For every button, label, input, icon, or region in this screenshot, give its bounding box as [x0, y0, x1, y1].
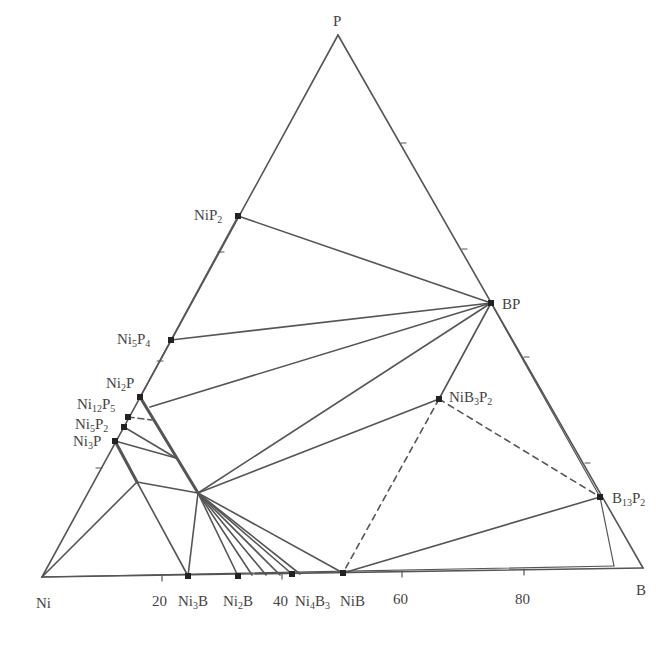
phase-marker-ni5p2	[121, 424, 127, 430]
phase-label-ni12p5: Ni12P5	[77, 397, 115, 414]
phase-marker-ni3b	[185, 573, 191, 579]
phase-marker-nib3p2	[436, 396, 442, 402]
phase-marker-ni2p	[137, 394, 143, 400]
phase-marker-ni3p	[112, 438, 118, 444]
tick-label-60: 60	[393, 592, 408, 607]
phase-marker-ni5p4	[168, 337, 174, 343]
phase-label-ni5p4: Ni5P4	[117, 332, 150, 349]
phase-label-ni5p2: Ni5P2	[75, 417, 108, 434]
tick-label-80: 80	[515, 592, 530, 607]
phase-label-ni3p: Ni3P	[73, 434, 101, 451]
tick-label-20: 20	[152, 594, 167, 609]
corner-label-b: B	[636, 583, 646, 598]
phase-label-nib: NiB	[340, 594, 365, 609]
phase-label-b13p2: B13P2	[612, 491, 645, 508]
phase-label-ni4b3: Ni4B3	[295, 594, 330, 611]
phase-label-bp: BP	[502, 297, 520, 312]
dashed-tieline	[343, 399, 439, 573]
tick-label-40: 40	[273, 594, 288, 609]
phase-marker-ni2b	[235, 573, 241, 579]
phase-marker-ni4b3	[289, 571, 295, 577]
corner-label-p: P	[333, 14, 341, 29]
phase-marker-bp	[488, 300, 494, 306]
dashed-tieline	[128, 417, 152, 420]
phase-label-ni2p: Ni2P	[106, 376, 134, 393]
phase-label-nip2: NiP2	[194, 208, 222, 225]
phase-marker-nib	[340, 570, 346, 576]
corner-label-ni: Ni	[36, 596, 51, 611]
phase-label-nib3p2: NiB3P2	[449, 390, 492, 407]
phase-marker-nip2	[235, 213, 241, 219]
ternary-phase-diagram	[0, 0, 672, 645]
phase-label-ni3b: Ni3B	[178, 594, 208, 611]
phase-marker-ni12p5	[125, 414, 131, 420]
phase-label-ni2b: Ni2B	[223, 594, 253, 611]
dashed-tieline	[439, 399, 600, 497]
phase-marker-b13p2	[597, 494, 603, 500]
edge-ni-p	[42, 35, 338, 577]
